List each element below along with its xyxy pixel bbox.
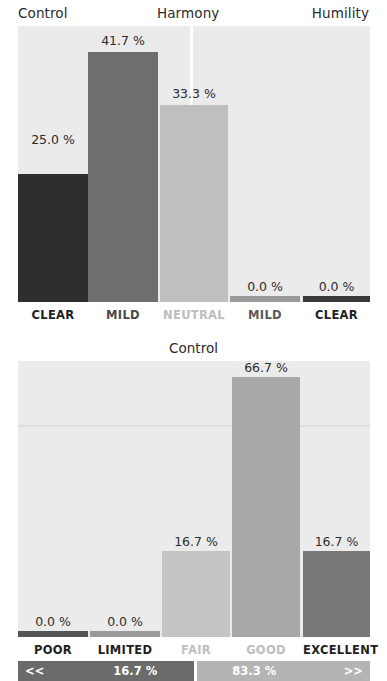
group-label-control: Control <box>18 2 68 24</box>
bar-clear-control[interactable] <box>18 174 88 302</box>
plot-area-top <box>18 26 370 302</box>
bar-poor[interactable] <box>18 631 88 637</box>
bar-value-clear-humility: 0.0 % <box>303 279 370 295</box>
stacked-severity-chart-top: Control Harmony Humility 25.0 % 41.7 % 3… <box>0 0 387 330</box>
bar-neutral-harmony[interactable] <box>160 105 228 302</box>
category-row-top: CLEAR MILD NEUTRAL MILD CLEAR <box>0 306 387 324</box>
group-label-humility: Humility <box>312 2 369 24</box>
chart-title-control: Control <box>0 337 387 359</box>
category-row-bottom: POOR LIMITED FAIR GOOD EXCELLENT <box>0 641 387 659</box>
next-arrow-icon[interactable]: >> <box>344 664 363 678</box>
summary-segment-positive-arrow[interactable]: >> <box>312 661 370 681</box>
bar-value-excellent: 16.7 % <box>303 534 370 550</box>
bar-mild-humility[interactable] <box>230 296 300 302</box>
summary-segment-negative[interactable]: 16.7 % <box>77 661 194 681</box>
group-header-row-top: Control Harmony Humility <box>0 2 387 24</box>
prev-arrow-icon[interactable]: << <box>25 664 44 678</box>
bar-value-neutral-harmony: 33.3 % <box>160 86 228 102</box>
bar-value-mild-humility: 0.0 % <box>230 279 300 295</box>
summary-segment-negative-arrow[interactable]: << <box>18 661 77 681</box>
bar-mild-control[interactable] <box>88 52 158 302</box>
category-label-excellent: EXCELLENT <box>303 641 370 659</box>
bar-excellent[interactable] <box>303 551 370 637</box>
summary-split-bar: << 16.7 % 83.3 % >> <box>18 661 370 681</box>
chart-title-row-bottom: Control <box>0 337 387 359</box>
bar-value-poor: 0.0 % <box>18 614 88 630</box>
scanline-artifact <box>18 425 370 427</box>
summary-value-positive: 83.3 % <box>197 664 312 678</box>
bar-value-mild-control: 41.7 % <box>88 33 158 49</box>
bar-value-clear-control: 25.0 % <box>18 132 88 148</box>
plot-area-bottom <box>18 361 370 637</box>
group-label-harmony: Harmony <box>157 2 219 24</box>
bar-good[interactable] <box>232 377 300 637</box>
summary-value-negative: 16.7 % <box>77 664 194 678</box>
summary-segment-positive[interactable]: 83.3 % <box>197 661 312 681</box>
bar-value-good: 66.7 % <box>232 360 300 376</box>
category-label-good: GOOD <box>232 641 300 659</box>
category-label-clear-humility: CLEAR <box>303 306 370 324</box>
stacked-quality-chart-bottom: Control 0.0 % 0.0 % 16.7 % 66.7 % 16.7 %… <box>0 335 387 667</box>
category-label-mild-humility: MILD <box>230 306 300 324</box>
bar-clear-humility[interactable] <box>303 296 370 302</box>
category-label-neutral-harmony: NEUTRAL <box>160 306 228 324</box>
bar-value-limited: 0.0 % <box>90 614 160 630</box>
bar-fair[interactable] <box>162 551 230 637</box>
category-label-clear-control: CLEAR <box>18 306 88 324</box>
category-label-poor: POOR <box>18 641 88 659</box>
category-label-mild-control: MILD <box>88 306 158 324</box>
bar-limited[interactable] <box>90 631 160 637</box>
category-label-limited: LIMITED <box>90 641 160 659</box>
bar-value-fair: 16.7 % <box>162 534 230 550</box>
category-label-fair: FAIR <box>162 641 230 659</box>
